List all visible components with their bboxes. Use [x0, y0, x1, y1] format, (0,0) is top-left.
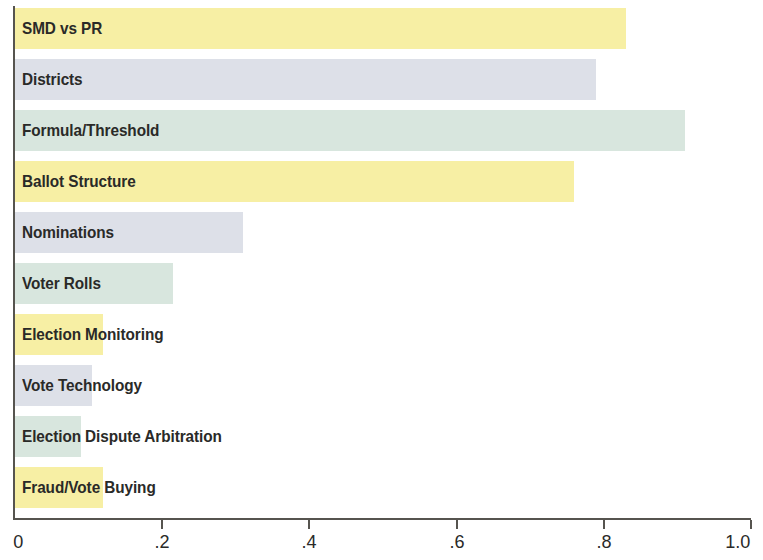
x-axis-tick-label: .4 [302, 531, 317, 553]
x-axis-tick-label: .6 [449, 531, 464, 553]
x-axis-tick [603, 520, 605, 529]
bar-row: Election Dispute Arbitration [15, 416, 81, 457]
bar-label: Districts [22, 59, 83, 100]
bar-row: Fraud/Vote Buying [15, 467, 103, 508]
bar-row: Election Monitoring [15, 314, 103, 355]
bar-label: Formula/Threshold [22, 110, 159, 151]
bar-rect [15, 8, 626, 49]
bar-label: Voter Rolls [22, 263, 101, 304]
bar-row: Vote Technology [15, 365, 92, 406]
x-axis-tick [161, 520, 163, 529]
x-axis-tick-label: 0 [13, 531, 23, 553]
bar-label: SMD vs PR [22, 8, 102, 49]
plot-area: SMD vs PRDistrictsFormula/ThresholdBallo… [0, 0, 763, 519]
x-axis-tick [750, 520, 752, 529]
x-axis-tick [456, 520, 458, 529]
horizontal-bar-chart: SMD vs PRDistrictsFormula/ThresholdBallo… [0, 0, 763, 560]
bar-rect [15, 59, 596, 100]
bar-label: Vote Technology [22, 365, 142, 406]
x-axis-tick-label: 1.0 [725, 531, 750, 553]
bar-row: Ballot Structure [15, 161, 574, 202]
bar-label: Fraud/Vote Buying [22, 467, 156, 508]
bar-label: Election Dispute Arbitration [22, 416, 222, 457]
x-axis-tick-label: .8 [596, 531, 611, 553]
x-axis-tick [308, 520, 310, 529]
bar-row: SMD vs PR [15, 8, 626, 49]
bar-label: Nominations [22, 212, 114, 253]
x-axis-line [13, 518, 751, 520]
bar-row: Nominations [15, 212, 243, 253]
x-axis-tick-label: .2 [155, 531, 170, 553]
bar-row: Voter Rolls [15, 263, 173, 304]
bar-row: Formula/Threshold [15, 110, 685, 151]
bar-row: Districts [15, 59, 596, 100]
bar-label: Election Monitoring [22, 314, 163, 355]
bar-label: Ballot Structure [22, 161, 136, 202]
